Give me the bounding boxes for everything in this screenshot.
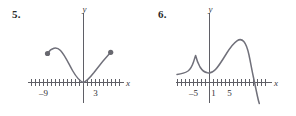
figure-5-x-tick-label-neg9: –9 — [38, 88, 49, 98]
figure-5-right-endpoint-dot — [108, 50, 113, 55]
figure-5-curve — [48, 48, 111, 82]
figure-6: 6. — [148, 0, 296, 116]
figure-6-x-axis-label: x — [273, 78, 278, 88]
figure-5-plot: x y –9 3 — [0, 0, 148, 116]
figure-5-left-endpoint-dot — [45, 51, 50, 56]
figure-6-plot: x y –5 1 5 — [148, 0, 296, 116]
figure-5-x-tick-label-3: 3 — [93, 88, 98, 98]
figure-5-x-axis-label: x — [125, 78, 130, 88]
figure-6-x-tick-label-1: 1 — [211, 88, 216, 98]
figure-6-y-axis-label: y — [208, 4, 213, 14]
figure-pair-page: 5. — [0, 0, 296, 116]
figure-6-x-tick-label-neg5: –5 — [188, 88, 199, 98]
figure-5: 5. — [0, 0, 148, 116]
figure-6-x-tick-label-5: 5 — [227, 88, 232, 98]
figure-5-y-axis-label: y — [82, 4, 87, 14]
